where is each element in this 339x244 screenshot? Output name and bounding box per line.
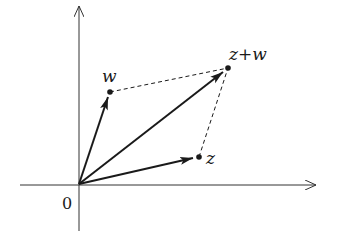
dashed-w-to-sum <box>110 68 228 92</box>
point-z-plus-w <box>225 65 231 71</box>
label-z: z <box>205 148 216 168</box>
point-w <box>107 89 113 95</box>
label-z-plus-w: z+w <box>228 44 267 64</box>
origin-label: 0 <box>62 194 72 213</box>
label-w: w <box>102 66 117 86</box>
vector-diagram: w z z+w 0 <box>0 0 339 244</box>
point-z <box>196 154 202 160</box>
dashed-z-to-sum <box>199 68 228 157</box>
vector-w <box>79 97 108 184</box>
